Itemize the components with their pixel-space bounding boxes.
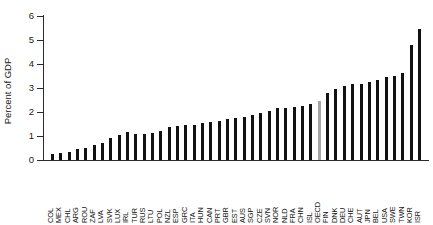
x-axis-line [43, 160, 429, 161]
bar [218, 121, 221, 160]
bar [393, 76, 396, 160]
y-axis-tick [37, 160, 43, 161]
bar [234, 118, 237, 160]
bar [134, 134, 137, 160]
bar [385, 77, 388, 160]
y-axis-tick-label: 0 [20, 155, 34, 165]
bar [184, 125, 187, 160]
bar [368, 82, 371, 160]
bar [159, 131, 162, 160]
bar [151, 133, 154, 160]
bar [259, 113, 262, 160]
bar [76, 149, 79, 160]
bar [251, 115, 254, 160]
y-axis-tick-label: 5 [20, 35, 34, 45]
bar [293, 107, 296, 160]
bar [309, 104, 312, 160]
y-axis-title: Percent of GDP [0, 14, 16, 168]
y-axis-tick-label: 1 [20, 131, 34, 141]
y-axis-tick [37, 112, 43, 113]
bar-chart: Percent of GDP 0123456 COLMEXCHLARGROUZA… [0, 0, 433, 225]
y-axis-tick-label: 3 [20, 83, 34, 93]
bar [226, 119, 229, 160]
bar [301, 106, 304, 160]
x-axis-tick-labels: COLMEXCHLARGROUZAFLVASVKLUXIRLTURRUSLTUP… [44, 162, 429, 224]
x-axis-tick-label: ISR [414, 211, 422, 223]
bar [276, 108, 279, 160]
bar [418, 29, 421, 160]
plot-area [44, 16, 429, 160]
bar [334, 89, 337, 160]
y-axis-tick [37, 64, 43, 65]
y-axis-tick [37, 16, 43, 17]
x-axis-tick-label: LVA [97, 210, 105, 223]
bar [209, 122, 212, 160]
x-axis-tick-label: ARG [72, 207, 80, 223]
bar [51, 154, 54, 160]
bar [360, 84, 363, 160]
bar [101, 143, 104, 160]
bar [193, 125, 196, 160]
bar [176, 126, 179, 160]
bar [118, 135, 121, 160]
bar [84, 148, 87, 160]
x-axis-tick-label: SWE [389, 206, 397, 223]
bar [68, 152, 71, 160]
bar [143, 134, 146, 160]
bar-series [44, 16, 429, 160]
y-axis-tick [37, 40, 43, 41]
bar [401, 73, 404, 160]
y-axis-tick-label: 6 [20, 11, 34, 21]
y-axis-tick [37, 136, 43, 137]
y-axis-tick-label: 4 [20, 59, 34, 69]
y-axis-tick-label: 2 [20, 107, 34, 117]
bar [326, 93, 329, 160]
bar [168, 127, 171, 160]
bar [126, 132, 129, 160]
bar [201, 123, 204, 160]
bar [59, 153, 62, 160]
bar [268, 111, 271, 160]
bar [376, 80, 379, 160]
bar [351, 84, 354, 160]
bar [343, 86, 346, 160]
bar [410, 45, 413, 160]
bar [109, 138, 112, 160]
bar [318, 101, 321, 160]
bar [284, 108, 287, 160]
y-axis-tick [37, 88, 43, 89]
bar [93, 145, 96, 160]
bar [243, 117, 246, 160]
